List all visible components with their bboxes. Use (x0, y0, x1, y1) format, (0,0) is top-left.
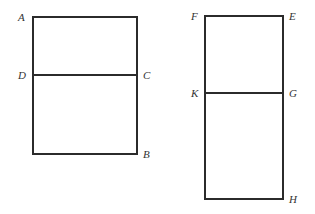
vertex-label-d: D (17, 69, 26, 81)
rectangle-efh (205, 16, 283, 199)
vertex-label-b: B (143, 148, 150, 160)
rectangle-abcd (33, 17, 137, 154)
vertex-label-h: H (288, 193, 298, 205)
vertex-label-f: F (190, 10, 198, 22)
vertex-label-a: A (17, 11, 25, 23)
vertex-label-e: E (288, 10, 296, 22)
figure-left-rectangle: A D C B (17, 11, 151, 160)
geometry-diagram: A D C B F E K G H (0, 0, 315, 214)
vertex-label-g: G (289, 87, 297, 99)
vertex-label-c: C (143, 69, 151, 81)
figure-right-rectangle: F E K G H (190, 10, 298, 205)
vertex-label-k: K (190, 87, 199, 99)
